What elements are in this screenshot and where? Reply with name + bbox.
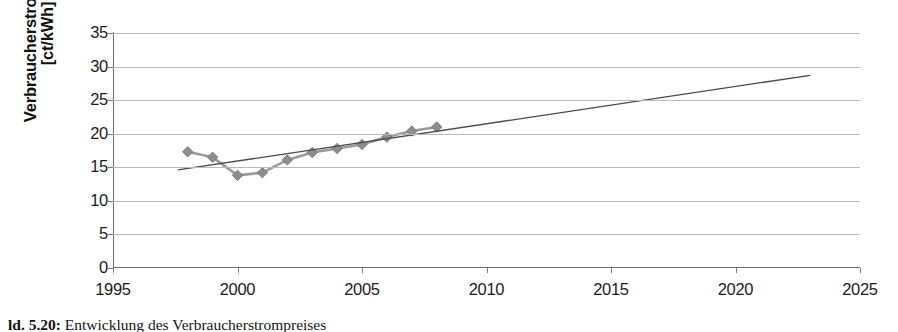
x-axis-tick-label: 2010	[469, 280, 505, 299]
figure-caption: ld. 5.20: Entwicklung des Verbraucherstr…	[8, 316, 898, 332]
gridline	[113, 67, 860, 68]
figure-container: Verbraucherstrompreis [ct/kWh] 051015202…	[0, 0, 898, 332]
x-axis-tick	[487, 268, 488, 273]
gridline	[113, 234, 860, 235]
data-point-marker	[357, 139, 367, 149]
x-axis-tick	[611, 268, 612, 273]
gridline	[113, 33, 860, 34]
gridline	[113, 167, 860, 168]
x-axis-tick	[238, 268, 239, 273]
x-axis-tick-label: 2025	[842, 280, 878, 299]
data-point-marker	[332, 143, 342, 153]
x-axis-tick	[113, 268, 114, 273]
x-axis-tick-label: 1995	[95, 280, 131, 299]
y-axis-tick	[108, 234, 113, 235]
x-axis-tick-label: 2005	[344, 280, 380, 299]
gridline	[113, 100, 860, 101]
y-axis-tick	[108, 100, 113, 101]
data-point-marker	[257, 167, 267, 177]
x-axis-tick	[860, 268, 861, 273]
y-axis-tick	[108, 201, 113, 202]
x-axis-tick-label: 2020	[718, 280, 754, 299]
y-axis-tick	[108, 67, 113, 68]
x-axis-tick	[736, 268, 737, 273]
x-axis-tick-label: 2000	[220, 280, 256, 299]
y-axis-tick	[108, 134, 113, 135]
trend-line	[178, 75, 810, 170]
data-series-layer	[113, 33, 860, 268]
gridline	[113, 134, 860, 135]
data-point-marker	[282, 155, 292, 165]
plot-area	[113, 33, 860, 268]
gridline	[113, 201, 860, 202]
data-point-marker	[183, 147, 193, 157]
x-axis-tick-label: 2015	[593, 280, 629, 299]
y-axis-tick	[108, 167, 113, 168]
x-axis-tick	[362, 268, 363, 273]
caption-text: Entwicklung des Verbraucherstrompreises	[65, 316, 326, 332]
caption-label: ld. 5.20:	[8, 316, 61, 332]
y-axis-tick	[108, 33, 113, 34]
